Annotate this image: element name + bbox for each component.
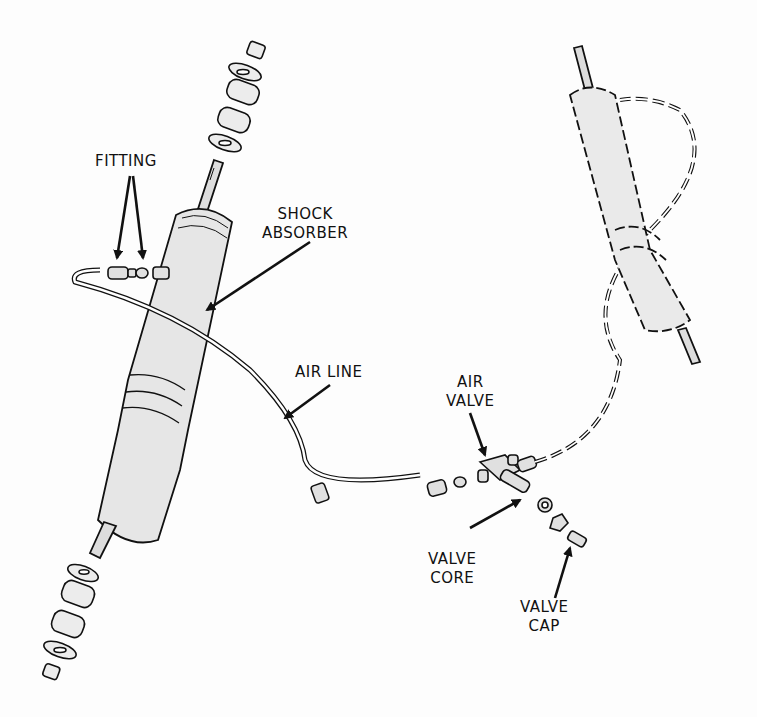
air-valve-assembly (426, 455, 587, 548)
lower-mount-hardware (42, 561, 101, 680)
fittings (108, 267, 169, 279)
right-shock-absorber-phantom (570, 46, 700, 364)
label-air-line: AIR LINE (295, 363, 362, 382)
left-shock-absorber (90, 160, 232, 558)
label-fitting: FITTING (95, 152, 157, 171)
label-valve-core: VALVE CORE (428, 550, 477, 588)
shock-absorber-diagram (0, 0, 757, 717)
label-shock-absorber: SHOCK ABSORBER (262, 205, 348, 243)
diagram-canvas: FITTING SHOCK ABSORBER AIR LINE AIR VALV… (0, 0, 757, 717)
label-air-valve: AIR VALVE (446, 373, 495, 411)
label-valve-cap: VALVE CAP (520, 598, 569, 636)
upper-mount-hardware (207, 41, 266, 156)
